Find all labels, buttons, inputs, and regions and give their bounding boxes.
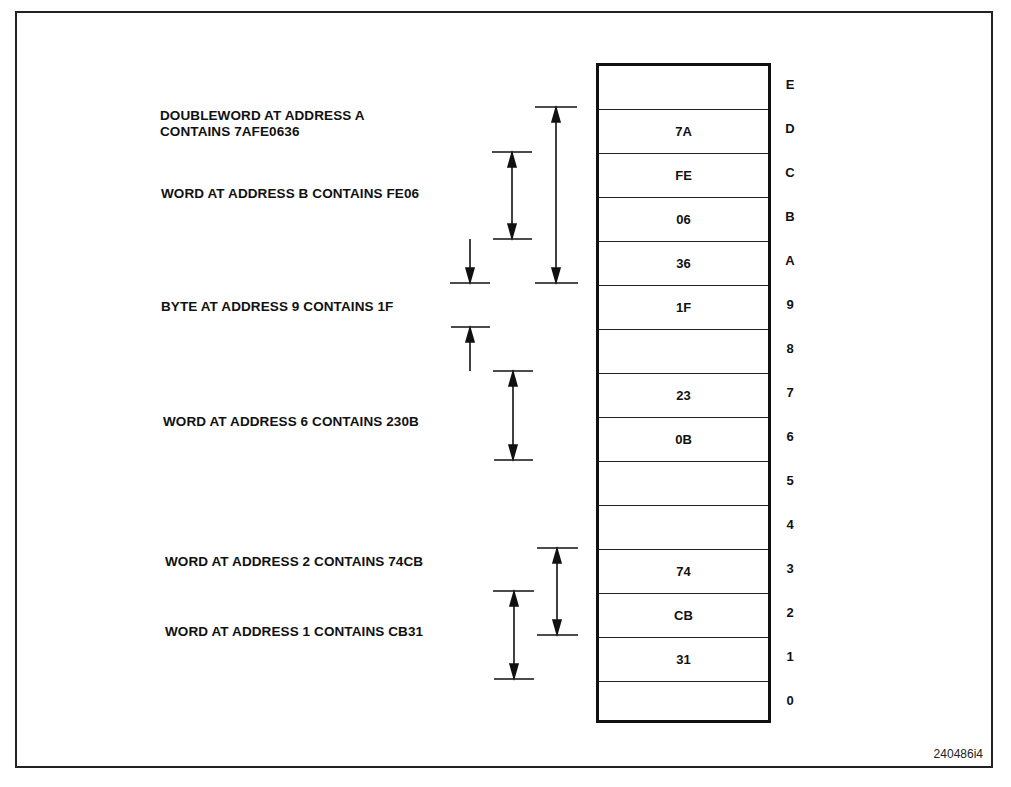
word-6-span-arrow bbox=[493, 371, 533, 460]
dimension-arrows bbox=[0, 0, 1011, 787]
word-2-span-arrow bbox=[537, 548, 578, 635]
doubleword-a-span-arrow bbox=[535, 107, 578, 283]
word-1-span-arrow bbox=[493, 591, 534, 679]
byte-9-span-arrow bbox=[450, 239, 490, 371]
figure-id: 240486i4 bbox=[934, 747, 983, 761]
word-b-span-arrow bbox=[492, 152, 532, 239]
